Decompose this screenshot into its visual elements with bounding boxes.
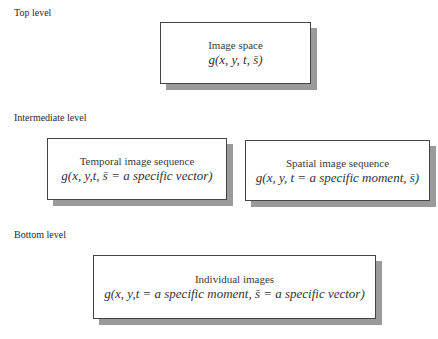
box-formula: g(x, y,t, s̄ = a specific vector) xyxy=(61,168,212,183)
box-formula: g(x, y,t = a specific moment, s̄ = a spe… xyxy=(104,286,365,301)
box-title: Image space xyxy=(208,39,263,52)
intermediate-level-label: Intermediate level xyxy=(14,112,86,123)
temporal-image-sequence-box: Temporal image sequence g(x, y,t, s̄ = a… xyxy=(47,138,227,200)
box-title: Spatial image sequence xyxy=(286,157,389,170)
individual-images-box: Individual images g(x, y,t = a specific … xyxy=(93,255,376,319)
box-formula: g(x, y, t = a specific moment, s̄) xyxy=(256,170,419,185)
box-formula: g(x, y, t, s̄) xyxy=(208,52,262,67)
box-title: Temporal image sequence xyxy=(80,155,195,168)
box-title: Individual images xyxy=(195,273,274,286)
top-level-label: Top level xyxy=(14,7,51,18)
image-space-box: Image space g(x, y, t, s̄) xyxy=(160,22,311,84)
spatial-image-sequence-box: Spatial image sequence g(x, y, t = a spe… xyxy=(245,140,430,201)
bottom-level-label: Bottom level xyxy=(14,229,66,240)
